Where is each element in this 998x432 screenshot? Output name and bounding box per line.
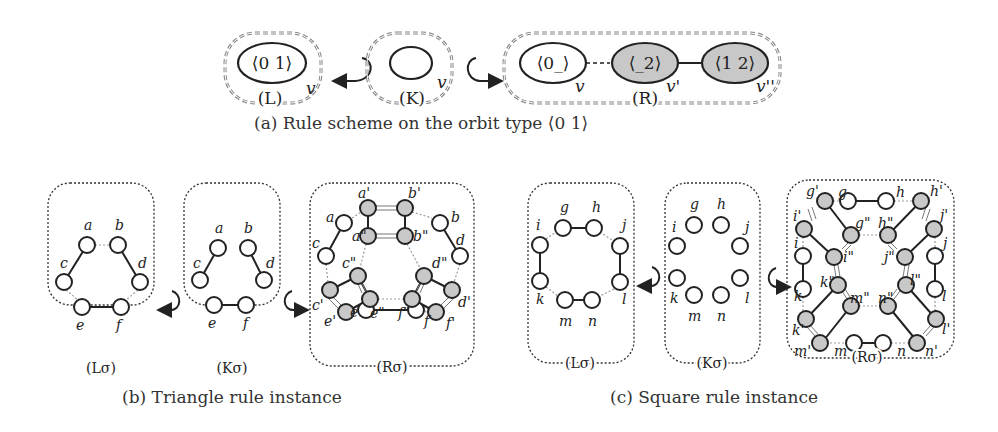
svg-text:g: g — [560, 199, 569, 215]
svg-text:l: l — [745, 290, 749, 306]
svg-text:v: v — [575, 76, 585, 96]
node-label-01: ⟨0 1⟩ — [252, 53, 292, 73]
svg-text:g": g" — [855, 215, 870, 231]
svg-text:a: a — [84, 217, 92, 233]
svg-text:e: e — [350, 304, 358, 320]
svg-text:l: l — [622, 291, 626, 307]
svg-text:n: n — [588, 313, 597, 329]
svg-text:(Kσ): (Kσ) — [697, 355, 728, 371]
panel-b-L: a b c d e f (Lσ) — [48, 183, 154, 376]
svg-text:i: i — [794, 235, 798, 251]
svg-text:c': c' — [312, 297, 324, 313]
arrow-kb-to-lb — [160, 291, 179, 310]
svg-text:b": b" — [413, 228, 428, 244]
svg-text:g: g — [838, 184, 847, 200]
rule-figure: ⟨0 1⟩ v (L) v (K) ⟨0_⟩ ⟨_2⟩ ⟨1 2⟩ — [0, 0, 998, 432]
svg-text:(Rσ): (Rσ) — [376, 359, 407, 375]
svg-text:k': k' — [792, 322, 804, 338]
panel-a: ⟨0 1⟩ v (L) v (K) ⟨0_⟩ ⟨_2⟩ ⟨1 2⟩ — [225, 33, 780, 108]
svg-text:l': l' — [942, 321, 950, 337]
svg-text:n": n" — [878, 290, 893, 306]
panel-b: a b c d e f (Lσ) a b c d e f (Kσ) — [48, 183, 474, 376]
svg-text:i: i — [536, 217, 540, 233]
panel-c-K: g h i j k l m n (Kσ) — [665, 183, 760, 371]
svg-text:k: k — [794, 288, 802, 304]
svg-text:i": i" — [843, 249, 854, 265]
svg-text:e': e' — [324, 313, 336, 329]
arrow-kc-to-lc — [640, 267, 659, 286]
panel-c: g h i j k l m n (Lσ) g h i j k l — [528, 180, 954, 371]
svg-text:b: b — [244, 220, 253, 236]
svg-text:b: b — [115, 217, 124, 233]
svg-text:h: h — [896, 184, 905, 200]
svg-text:n': n' — [925, 343, 938, 359]
caption-b: (b) Triangle rule instance — [122, 387, 342, 407]
svg-text:a: a — [326, 209, 334, 225]
svg-text:(Rσ): (Rσ) — [851, 349, 882, 365]
svg-text:d: d — [266, 255, 275, 271]
svg-text:k: k — [670, 290, 678, 306]
svg-text:(K): (K) — [399, 88, 425, 108]
svg-text:c: c — [193, 255, 201, 271]
svg-text:h': h' — [930, 183, 943, 199]
arrow-kc-to-rc — [769, 268, 788, 287]
svg-text:d: d — [456, 232, 465, 248]
svg-text:a": a" — [352, 228, 367, 244]
svg-text:h: h — [717, 196, 726, 212]
panel-a-R: ⟨0_⟩ ⟨_2⟩ ⟨1 2⟩ v v' v'' (R) — [504, 33, 780, 108]
panel-b-R: a a' a" b b' b" c c' c" d d' d" e e' e" … — [310, 183, 474, 375]
panel-a-L: ⟨0 1⟩ v (L) — [225, 33, 321, 108]
svg-text:i': i' — [793, 208, 801, 224]
svg-text:v'': v'' — [756, 76, 775, 96]
svg-text:j: j — [940, 235, 948, 251]
svg-text:b: b — [451, 209, 460, 225]
svg-text:k: k — [536, 291, 544, 307]
svg-text:k": k" — [820, 274, 835, 290]
svg-text:d": d" — [432, 255, 447, 271]
svg-text:f: f — [115, 317, 124, 333]
svg-text:a': a' — [358, 185, 370, 201]
svg-text:d: d — [138, 255, 147, 271]
svg-text:v': v' — [666, 76, 680, 96]
svg-text:l": l" — [910, 272, 921, 288]
svg-text:e: e — [76, 317, 84, 333]
svg-text:(Kσ): (Kσ) — [217, 360, 248, 376]
svg-text:c: c — [312, 235, 320, 251]
panel-c-R: g g' g" h h' h" i i' i" j j' j" k k' k" … — [787, 180, 954, 365]
panel-c-L: g h i j k l m n (Lσ) — [528, 183, 634, 371]
svg-text:⟨0_⟩: ⟨0_⟩ — [537, 53, 570, 73]
svg-text:c: c — [60, 255, 68, 271]
svg-text:f: f — [242, 315, 251, 331]
svg-text:v: v — [437, 72, 447, 92]
svg-text:n: n — [897, 343, 906, 359]
arrow-k-to-r — [468, 58, 500, 81]
svg-text:e": e" — [370, 305, 385, 321]
caption-a: (a) Rule scheme on the orbit type ⟨0 1⟩ — [254, 113, 588, 133]
svg-text:(L): (L) — [258, 88, 283, 108]
svg-text:m': m' — [794, 343, 811, 359]
svg-text:m: m — [834, 343, 847, 359]
svg-text:m: m — [688, 308, 701, 324]
svg-text:f": f" — [397, 305, 410, 321]
svg-text:g': g' — [806, 183, 819, 199]
svg-text:(R): (R) — [632, 88, 658, 108]
svg-text:v: v — [306, 78, 316, 98]
svg-text:e: e — [208, 315, 216, 331]
caption-c: (c) Square rule instance — [610, 387, 818, 407]
svg-text:j': j' — [937, 207, 948, 223]
svg-text:⟨1 2⟩: ⟨1 2⟩ — [715, 53, 755, 73]
svg-text:h: h — [592, 199, 601, 215]
svg-text:(Lσ): (Lσ) — [86, 360, 116, 376]
panel-b-K: a b c d e f (Kσ) — [184, 183, 280, 376]
svg-text:d': d' — [458, 294, 471, 310]
svg-text:m: m — [559, 313, 572, 329]
svg-text:b': b' — [408, 185, 421, 201]
svg-text:h": h" — [878, 215, 893, 231]
svg-text:c": c" — [342, 255, 356, 271]
svg-text:j: j — [742, 219, 750, 235]
svg-text:j: j — [619, 217, 627, 233]
svg-text:g: g — [690, 196, 699, 212]
svg-text:(Lσ): (Lσ) — [565, 355, 595, 371]
svg-text:i: i — [672, 219, 676, 235]
svg-text:l: l — [942, 288, 946, 304]
